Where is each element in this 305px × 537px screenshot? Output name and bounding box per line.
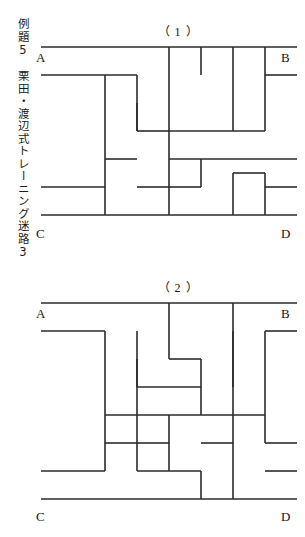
maze-1-title: （ 1 ） <box>42 22 305 40</box>
maze-2-title: （ 2 ） <box>42 278 305 296</box>
maze-2-diagram <box>38 300 300 526</box>
maze-2-container: （ 2 ） A B C D <box>30 278 302 534</box>
maze-1-container: （ 1 ） A B C D <box>30 22 302 272</box>
maze-worksheet-page: 例題5 栗田・渡辺式トレーニング迷路3 （ 1 ） A B C D （ 2 ） … <box>0 0 305 537</box>
vertical-caption: 例題5 栗田・渡辺式トレーニング迷路3 <box>4 18 28 288</box>
maze-1-diagram <box>38 44 300 244</box>
